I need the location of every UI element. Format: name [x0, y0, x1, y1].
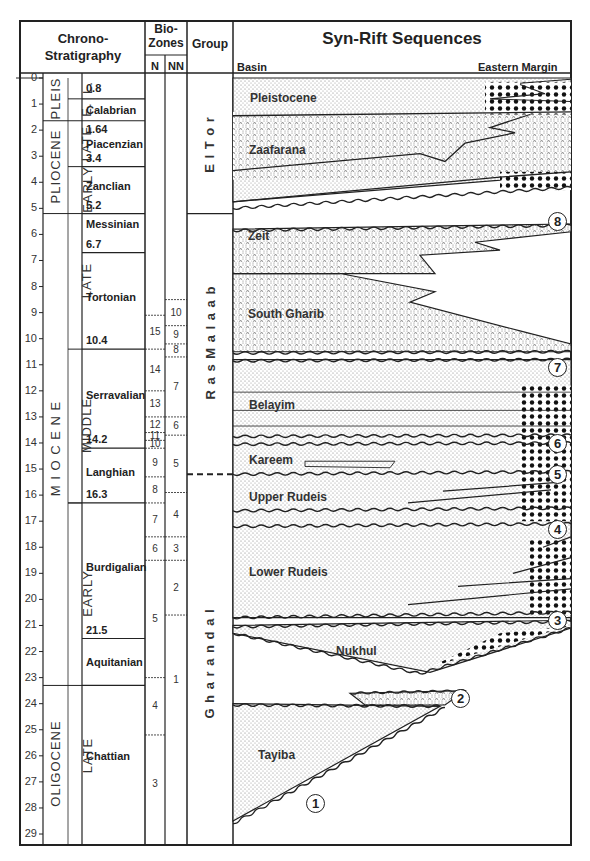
margin-clastics-lower: [530, 539, 571, 615]
biozones-header: Bio- Zones: [145, 22, 187, 50]
epoch-label: PLEIS: [48, 78, 63, 121]
formation-label: South Gharib: [248, 307, 324, 321]
biozone-label: 5: [165, 458, 187, 469]
formation-label: Nukhul: [336, 644, 377, 658]
axis-tick-label: 24: [21, 697, 37, 709]
stage-name: Chattian: [86, 750, 130, 762]
biozone-label: 2: [165, 582, 187, 593]
biozone-label: 9: [165, 329, 187, 340]
biozone-label: 13: [145, 398, 165, 409]
axis-tick-label: 15: [21, 462, 37, 474]
stage-name: Burdigalian: [86, 561, 147, 573]
formation-label: Zeit: [248, 229, 269, 243]
axis-tick-label: 12: [21, 384, 37, 396]
axis-tick-label: 20: [21, 592, 37, 604]
axis-tick-label: 10: [21, 332, 37, 344]
biozone-label: 9: [145, 457, 165, 468]
sequence-panel: [233, 78, 571, 824]
stage-age-label: 6.7: [86, 238, 101, 250]
axis-tick-label: 5: [21, 201, 37, 213]
stage-name: Tortonian: [86, 291, 136, 303]
sequences-title: Syn-Rift Sequences: [233, 30, 571, 47]
biozone-label: 5: [145, 613, 165, 624]
axis-tick-label: 7: [21, 253, 37, 265]
biozone-label: 14: [145, 364, 165, 375]
sequence-number-badge: 4: [548, 520, 567, 539]
axis-tick-label: 19: [21, 566, 37, 578]
stage-name: Calabrian: [86, 104, 136, 116]
axis-tick-label: 1: [21, 97, 37, 109]
biozone-label: 7: [165, 381, 187, 392]
axis-tick-label: 16: [21, 488, 37, 500]
sequence-number-badge: 1: [306, 794, 325, 813]
stage-age-label: 14.2: [86, 433, 107, 445]
biozone-label: 8: [145, 484, 165, 495]
formation-label: Kareem: [249, 453, 293, 467]
tayiba-fill: [233, 704, 440, 821]
biozone-label: 3: [165, 543, 187, 554]
stage-age-label: 3.4: [86, 152, 101, 164]
axis-tick-label: 2: [21, 123, 37, 135]
biozone-label: 4: [165, 509, 187, 520]
eastern-margin-label: Eastern Margin: [478, 61, 557, 73]
axis-tick-label: 8: [21, 280, 37, 292]
axis-tick-label: 3: [21, 149, 37, 161]
axis-tick-label: 26: [21, 749, 37, 761]
stage-age-label: 10.4: [86, 334, 107, 346]
axis-tick-label: 25: [21, 723, 37, 735]
formation-label: Upper Rudeis: [249, 490, 327, 504]
stage-name: Piacenzian: [86, 138, 143, 150]
chrono-header: Chrono- Stratigraphy: [22, 30, 144, 64]
subepoch-label: MIDDLE: [79, 349, 94, 503]
axis-tick-label: 18: [21, 540, 37, 552]
biozone-label: 10: [145, 438, 165, 449]
biozone-n-header: N: [145, 58, 165, 75]
biozone-label: 15: [145, 326, 165, 337]
biozone-label: 6: [145, 543, 165, 554]
stage-age-label: 0.8: [86, 82, 101, 94]
axis-tick-label: 6: [21, 227, 37, 239]
formation-label: Lower Rudeis: [249, 565, 328, 579]
axis-tick-label: 4: [21, 175, 37, 187]
stage-name: Zanclian: [86, 180, 131, 192]
stage-name: Langhian: [86, 466, 135, 478]
sequence-2-lens: [350, 691, 465, 705]
basin-label: Basin: [237, 61, 267, 73]
biozone-label: 3: [145, 778, 165, 789]
group-label: G h a r a n d a l: [202, 483, 217, 843]
axis-tick-label: 0: [21, 71, 37, 83]
axis-tick-label: 11: [21, 358, 37, 370]
margin-clastics-mid: [520, 386, 571, 522]
biozone-label: 4: [145, 700, 165, 711]
biozone-label: 8: [165, 344, 187, 355]
axis-tick-label: 27: [21, 775, 37, 787]
axis-tick-label: 22: [21, 645, 37, 657]
axis-tick-label: 29: [21, 827, 37, 839]
formation-label: Zaafarana: [249, 143, 306, 157]
axis-tick-label: 13: [21, 410, 37, 422]
axis-tick-label: 23: [21, 671, 37, 683]
sequence-number-badge: 6: [548, 434, 567, 453]
biozone-nn-header: NN: [165, 58, 187, 75]
axis-tick-label: 9: [21, 306, 37, 318]
stage-name: Messinian: [86, 218, 139, 230]
stage-age-label: 16.3: [86, 488, 107, 500]
axis-tick-label: 28: [21, 801, 37, 813]
stage-age-label: 1.64: [86, 123, 107, 135]
nukhul-fill: [233, 620, 571, 672]
epoch-label: M I O C E N E: [48, 213, 63, 685]
biozone-label: 12: [145, 419, 165, 430]
stage-name: Aquitanian: [86, 656, 143, 668]
axis-tick-label: 21: [21, 618, 37, 630]
stage-age-label: 21.5: [86, 624, 107, 636]
biozone-label: 1: [165, 674, 187, 685]
group-label: R a s M a l a a b: [202, 212, 217, 473]
axis-tick-label: 14: [21, 436, 37, 448]
subepoch-label: LATE: [79, 213, 94, 349]
group-header: Group: [187, 36, 233, 53]
epoch-label: PLIOCENE: [48, 120, 63, 213]
formation-label: Pleistocene: [250, 91, 317, 105]
biozone-label: 7: [145, 514, 165, 525]
stage-name: Serravalian: [86, 389, 145, 401]
formation-label: Tayiba: [258, 748, 295, 762]
